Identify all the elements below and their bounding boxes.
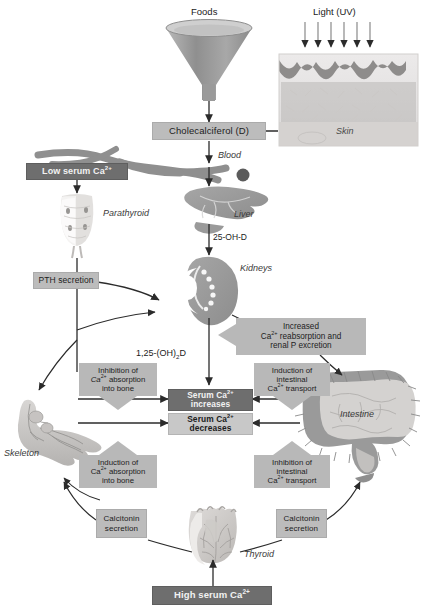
diagram-artwork — [0, 0, 425, 616]
kidney-papillae — [201, 269, 215, 311]
induction-intestinal-callout[interactable]: Induction of intestinal Ca2+ transport — [254, 363, 330, 396]
inhibition-intestinal-callout[interactable]: Inhibition of intestinal Ca2+ transport — [254, 455, 330, 488]
kidney-illustration — [180, 257, 238, 326]
foods-label: Foods — [191, 6, 217, 17]
funnel-icon — [166, 20, 252, 102]
calcitonin-secretion-right-box[interactable]: Calcitonin secretion — [276, 509, 327, 538]
low-serum-ca-label: Low serum Ca2+ — [42, 166, 112, 176]
intestine-label: Intestine — [340, 409, 374, 419]
increased-reabsorption-tail — [218, 324, 236, 346]
parathyroid-label: Parathyroid — [103, 208, 149, 218]
parathyroid-illustration — [61, 194, 94, 258]
thyroid-illustration — [189, 507, 237, 565]
induction-bone-callout[interactable]: Induction of Ca2+ absorption into bone — [79, 455, 157, 488]
inhibition-intestinal-label: Inhibition of intestinal Ca2+ transport — [268, 458, 317, 485]
liver-label: Liver — [234, 209, 254, 219]
induction-bone-label: Induction of Ca2+ absorption into bone — [91, 458, 146, 485]
high-serum-ca-label: High serum Ca2+ — [174, 590, 250, 601]
serum-ca-increases-verb: increases — [191, 400, 231, 409]
inhibition-bone-tail — [99, 396, 137, 410]
serum-ca-increases-box[interactable]: Serum Ca2+ increases — [168, 389, 253, 411]
induction-intestinal-label: Induction of intestinal Ca2+ transport — [268, 366, 317, 393]
inhibition-bone-callout[interactable]: Inhibition of Ca2+ absorption into bone — [79, 363, 157, 396]
calcitriol-label: 1,25-(OH)2D — [136, 348, 186, 358]
pth-secretion-box[interactable]: PTH secretion — [33, 272, 99, 289]
low-serum-ca-box[interactable]: Low serum Ca2+ — [26, 163, 128, 180]
thyroid-label: Thyroid — [244, 549, 274, 559]
skeleton-label: Skeleton — [4, 448, 39, 458]
serum-ca-decreases-box[interactable]: Serum Ca2+ decreases — [168, 413, 253, 435]
uv-ray-arrows — [305, 22, 370, 47]
calcitonin-secretion-right-label: Calcitonin secretion — [277, 514, 326, 533]
skin-label: Skin — [336, 126, 354, 136]
cholecalciferol-box[interactable]: Cholecalciferol (D) — [152, 122, 266, 140]
light-uv-label: Light (UV) — [313, 6, 356, 17]
blood-label: Blood — [218, 150, 241, 160]
calcitonin-secretion-left-box[interactable]: Calcitonin secretion — [96, 509, 147, 538]
increased-reabsorption-callout[interactable]: Increased Ca2+ reabsorption and renal P … — [236, 318, 366, 355]
inhibition-bone-label: Inhibition of Ca2+ absorption into bone — [91, 366, 146, 393]
increased-reabsorption-label: Increased Ca2+ reabsorption and renal P … — [261, 322, 342, 351]
hydroxy-d-label: 25-OH-D — [213, 232, 247, 242]
inhibition-intestinal-tail — [273, 441, 311, 455]
serum-ca-decreases-verb: decreases — [190, 424, 232, 433]
pth-secretion-label: PTH secretion — [38, 276, 93, 286]
high-serum-ca-box[interactable]: High serum Ca2+ — [152, 586, 272, 605]
kidneys-label: Kidneys — [240, 263, 272, 273]
induction-intestinal-tail — [273, 396, 311, 410]
diagram-canvas: Foods Light (UV) Skin Cholecalciferol (D… — [0, 0, 425, 616]
liver-illustration — [184, 187, 268, 234]
calcitonin-secretion-left-label: Calcitonin secretion — [97, 514, 146, 533]
cholecalciferol-label: Cholecalciferol (D) — [169, 126, 249, 137]
induction-bone-tail — [99, 441, 137, 455]
